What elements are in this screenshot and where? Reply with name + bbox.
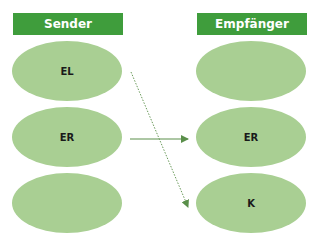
edges-layer — [0, 0, 319, 245]
